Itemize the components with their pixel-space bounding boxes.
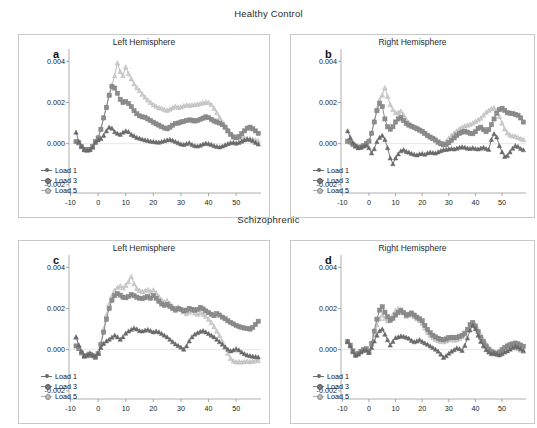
section-title-healthy-control: Healthy Control [0,8,537,20]
svg-text:50: 50 [232,198,240,207]
legend-swatch-load5 [313,396,324,397]
svg-text:30: 30 [445,198,453,207]
svg-text:10: 10 [392,198,400,207]
panel-b: Right Hemisphere b 0.0040.0020.000-0.002… [290,34,535,218]
svg-text:20: 20 [149,198,157,207]
panel-b-legend: Load 1 Load 3 Load 5 [313,165,349,195]
legend-swatch-load1 [313,376,324,377]
svg-text:30: 30 [177,404,185,413]
panel-c: Left Hemisphere c 0.0040.0020.000-0.002-… [18,240,270,424]
legend-label-load1: Load 1 [55,166,77,175]
svg-text:40: 40 [205,198,213,207]
section-schizophrenic: Schizophrenic Left Hemisphere c 0.0040.0… [0,214,537,418]
legend-item-load1: Load 1 [41,165,77,175]
section-title-schizophrenic: Schizophrenic [0,214,537,226]
svg-text:-10: -10 [65,198,75,207]
svg-text:-10: -10 [337,198,347,207]
legend-item-load3: Load 3 [41,175,77,185]
panel-c-legend: Load 1 Load 3 Load 5 [41,371,77,401]
svg-text:0.002: 0.002 [47,98,65,107]
legend-swatch-load3 [313,180,324,181]
legend-swatch-load5 [313,190,324,191]
svg-text:0.000: 0.000 [319,345,337,354]
legend-item-load5: Load 5 [41,185,77,195]
svg-text:10: 10 [122,198,130,207]
svg-text:20: 20 [418,404,426,413]
svg-text:20: 20 [418,198,426,207]
legend-swatch-load1 [313,170,324,171]
svg-text:40: 40 [471,198,479,207]
svg-text:0: 0 [96,404,100,413]
legend-label-load5: Load 5 [55,186,77,195]
legend-label-load3: Load 3 [327,382,349,391]
svg-text:0: 0 [367,198,371,207]
legend-label-load3: Load 3 [55,176,77,185]
legend-item-load5: Load 5 [313,391,349,401]
svg-text:50: 50 [498,404,506,413]
legend-label-load1: Load 1 [327,166,349,175]
svg-text:-10: -10 [337,404,347,413]
legend-label-load5: Load 5 [327,392,349,401]
legend-label-load5: Load 5 [55,392,77,401]
svg-text:50: 50 [498,198,506,207]
legend-label-load3: Load 3 [55,382,77,391]
panel-a: Left Hemisphere a 0.0040.0020.000-0.002-… [18,34,270,218]
svg-text:0.000: 0.000 [47,345,65,354]
svg-text:40: 40 [205,404,213,413]
legend-item-load5: Load 5 [41,391,77,401]
legend-label-load3: Load 3 [327,176,349,185]
svg-text:30: 30 [177,198,185,207]
svg-text:30: 30 [445,404,453,413]
svg-text:0.002: 0.002 [47,304,65,313]
legend-label-load5: Load 5 [327,186,349,195]
svg-text:50: 50 [232,404,240,413]
legend-item-load1: Load 1 [41,371,77,381]
svg-text:0.000: 0.000 [47,139,65,148]
legend-item-load3: Load 3 [41,381,77,391]
legend-label-load1: Load 1 [327,372,349,381]
panel-d-legend: Load 1 Load 3 Load 5 [313,371,349,401]
legend-swatch-load3 [41,386,52,387]
legend-item-load1: Load 1 [313,371,349,381]
legend-item-load3: Load 3 [313,381,349,391]
legend-swatch-load1 [41,170,52,171]
svg-text:20: 20 [149,404,157,413]
svg-text:0.002: 0.002 [319,98,337,107]
svg-text:0.004: 0.004 [319,57,337,66]
svg-text:-10: -10 [65,404,75,413]
svg-text:0.002: 0.002 [319,304,337,313]
svg-text:0.004: 0.004 [319,263,337,272]
svg-text:0: 0 [96,198,100,207]
figure-root: Healthy Control Left Hemisphere a 0.0040… [0,0,537,428]
legend-swatch-load5 [41,396,52,397]
section-healthy-control: Healthy Control Left Hemisphere a 0.0040… [0,8,537,208]
svg-text:40: 40 [471,404,479,413]
legend-item-load5: Load 5 [313,185,349,195]
panel-a-legend: Load 1 Load 3 Load 5 [41,165,77,195]
legend-label-load1: Load 1 [55,372,77,381]
legend-item-load1: Load 1 [313,165,349,175]
svg-text:10: 10 [122,404,130,413]
legend-swatch-load5 [41,190,52,191]
svg-text:0.000: 0.000 [319,139,337,148]
svg-text:0: 0 [367,404,371,413]
svg-text:10: 10 [392,404,400,413]
panel-d: Right Hemisphere d 0.0040.0020.000-0.002… [290,240,535,424]
legend-item-load3: Load 3 [313,175,349,185]
legend-swatch-load3 [41,180,52,181]
svg-text:0.004: 0.004 [47,57,65,66]
legend-swatch-load1 [41,376,52,377]
legend-swatch-load3 [313,386,324,387]
svg-text:0.004: 0.004 [47,263,65,272]
